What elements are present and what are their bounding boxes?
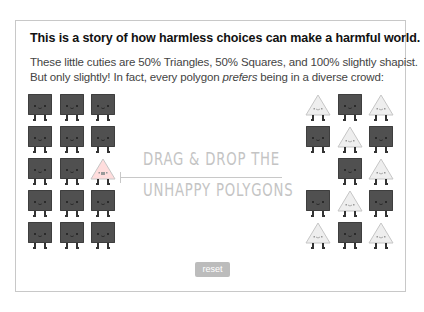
legs [375,179,387,185]
triangle-polygon[interactable] [368,94,394,122]
square-icon [306,190,330,211]
legs [66,243,78,249]
legs [34,211,46,217]
legs [344,211,356,217]
legs [312,115,324,121]
square-icon [60,190,84,211]
triangle-polygon[interactable] [305,222,331,250]
legs [344,179,356,185]
square-icon [369,190,393,211]
square-polygon[interactable] [337,158,363,186]
legs [97,115,109,121]
square-polygon[interactable] [59,94,85,122]
square-polygon[interactable] [59,190,85,218]
legs [312,211,324,217]
legs [34,243,46,249]
legs [66,211,78,217]
square-polygon[interactable] [90,126,116,154]
legs [34,179,46,185]
intro-line-2-start: But only slightly! In fact, every polygo… [30,71,223,83]
square-icon [28,94,52,115]
square-polygon[interactable] [90,190,116,218]
square-icon [91,222,115,243]
intro-line-1: These little cuties are 50% Triangles, 5… [30,55,418,70]
square-icon [60,126,84,147]
triangle-icon [305,222,331,244]
square-polygon[interactable] [305,190,331,218]
square-icon [91,190,115,211]
square-icon [91,126,115,147]
square-polygon[interactable] [368,126,394,154]
square-polygon[interactable] [337,94,363,122]
legs [312,147,324,153]
legs [375,211,387,217]
intro-line-2: But only slightly! In fact, every polygo… [30,70,418,85]
triangle-icon [90,158,116,180]
triangle-polygon[interactable] [305,94,331,122]
triangle-icon [337,126,363,148]
legs [344,147,356,153]
intro-line-2-end: being in a diverse crowd: [257,71,384,83]
legs [66,179,78,185]
square-polygon[interactable] [90,94,116,122]
legs [34,147,46,153]
square-polygon[interactable] [27,190,53,218]
square-icon [306,126,330,147]
square-polygon[interactable] [59,126,85,154]
legs [97,243,109,249]
instruction-line-2: UNHAPPY POLYGONS [143,180,293,200]
legs [66,115,78,121]
arrow-line-icon [121,177,282,178]
triangle-icon [368,158,394,180]
square-polygon[interactable] [27,158,53,186]
legs [375,147,387,153]
intro-description: These little cuties are 50% Triangles, 5… [30,55,418,85]
legs [97,179,109,185]
square-icon [60,222,84,243]
square-polygon[interactable] [59,222,85,250]
legs [97,147,109,153]
legs [375,243,387,249]
square-icon [28,158,52,179]
intro-emphasis: prefers [223,71,258,83]
legs [344,115,356,121]
unhappy-triangle-polygon[interactable] [90,158,116,186]
triangle-icon [368,94,394,116]
legs [66,147,78,153]
square-icon [338,222,362,243]
square-polygon[interactable] [368,190,394,218]
legs [375,115,387,121]
instruction-line-1: DRAG & DROP THE [143,149,280,169]
triangle-polygon[interactable] [368,222,394,250]
square-polygon[interactable] [59,158,85,186]
page-title: This is a story of how harmless choices … [30,31,420,45]
legs [344,243,356,249]
square-icon [91,94,115,115]
legs [34,115,46,121]
empty-slot [305,158,331,186]
square-polygon[interactable] [90,222,116,250]
square-polygon[interactable] [27,126,53,154]
square-icon [338,94,362,115]
square-polygon[interactable] [337,222,363,250]
square-icon [60,158,84,179]
square-icon [369,126,393,147]
square-polygon[interactable] [27,94,53,122]
triangle-icon [337,190,363,212]
triangle-icon [368,222,394,244]
square-icon [338,158,362,179]
square-polygon[interactable] [305,126,331,154]
square-icon [28,126,52,147]
square-polygon[interactable] [27,222,53,250]
triangle-icon [305,94,331,116]
square-icon [28,222,52,243]
reset-button[interactable]: reset [195,262,230,277]
legs [312,243,324,249]
square-icon [28,190,52,211]
triangle-polygon[interactable] [337,190,363,218]
triangle-polygon[interactable] [368,158,394,186]
legs [97,211,109,217]
square-icon [60,94,84,115]
triangle-polygon[interactable] [337,126,363,154]
